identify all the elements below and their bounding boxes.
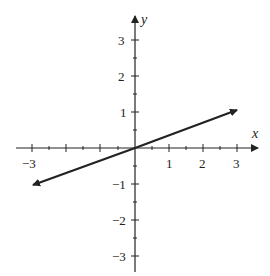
x-tick-label: 3: [233, 156, 240, 171]
y-tick-label: 2: [118, 69, 125, 84]
x-tick-label: 1: [166, 156, 173, 171]
coordinate-plane: x y −3 1 2 3 3 2 1 −1 −2 −3: [0, 0, 270, 276]
y-tick-label: −3: [112, 249, 126, 264]
y-tick-label: 1: [120, 105, 127, 120]
y-axis-label: y: [139, 12, 148, 27]
x-tick-label: 2: [199, 156, 206, 171]
x-tick-label: −3: [22, 156, 36, 171]
y-tick-label: −1: [112, 177, 126, 192]
x-axis-label: x: [251, 126, 259, 141]
y-tick-label: 3: [118, 33, 125, 48]
y-tick-label: −2: [112, 213, 126, 228]
data-line: [135, 110, 237, 148]
